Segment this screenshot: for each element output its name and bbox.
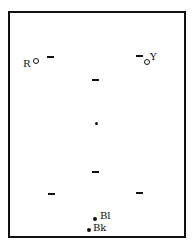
center-spot xyxy=(95,122,98,125)
marker-dash xyxy=(136,192,143,194)
blue-ball-label: Bl xyxy=(100,211,111,221)
marker-dash xyxy=(92,79,99,81)
marker-dash xyxy=(47,56,54,58)
marker-dash xyxy=(136,55,143,57)
black-ball xyxy=(87,228,91,232)
yellow-ball-label: Y xyxy=(150,52,157,62)
red-ball-label: R xyxy=(23,59,31,69)
black-ball-label: Bk xyxy=(93,223,106,233)
marker-dash xyxy=(48,193,55,195)
marker-dash xyxy=(92,171,99,173)
red-ball xyxy=(33,58,39,64)
blue-ball xyxy=(93,217,97,221)
